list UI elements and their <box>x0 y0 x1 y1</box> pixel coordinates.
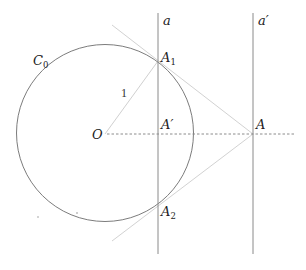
label-a2: A2 <box>160 204 176 221</box>
label-a-point: A <box>255 117 265 132</box>
label-radius: 1 <box>121 86 127 100</box>
label-o: O <box>92 127 103 142</box>
circle-c0 <box>17 45 194 222</box>
label-c0: C0 <box>33 53 48 70</box>
label-line-a: a <box>163 13 171 28</box>
label-line-a-prime: a′ <box>258 13 269 28</box>
geometry-diagram: C0 1 O a a′ A1 A′ A A2 <box>0 0 306 270</box>
label-a-prime-point: A′ <box>160 117 173 132</box>
speck-dot <box>76 212 77 213</box>
tangent-line-lower <box>112 134 253 241</box>
label-a1: A1 <box>160 50 176 67</box>
speck-dot <box>37 216 38 217</box>
tangent-line-upper <box>112 25 253 134</box>
radius-segment <box>105 61 158 134</box>
